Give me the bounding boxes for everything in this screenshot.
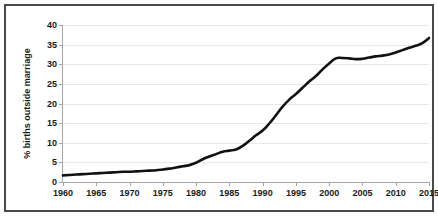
y-axis-title: % births outside marriage bbox=[20, 25, 34, 182]
x-tick bbox=[63, 182, 64, 186]
y-tick-label: 40 bbox=[47, 21, 57, 30]
plot-area: 0510152025303540 19601965197019751980198… bbox=[63, 25, 429, 182]
x-tick-label: 2015 bbox=[419, 189, 438, 198]
x-tick-label: 1960 bbox=[53, 189, 73, 198]
y-tick-label: 10 bbox=[47, 138, 57, 147]
y-tick-label: 35 bbox=[47, 40, 57, 49]
x-tick-label: 1990 bbox=[253, 189, 273, 198]
x-tick bbox=[196, 182, 197, 186]
y-tick-label: 5 bbox=[52, 158, 57, 167]
x-tick bbox=[429, 182, 430, 186]
x-tick bbox=[296, 182, 297, 186]
y-tick-label: 15 bbox=[47, 119, 57, 128]
y-tick-label: 0 bbox=[52, 178, 57, 187]
chart-frame: % births outside marriage 05101520253035… bbox=[4, 4, 434, 212]
series-line-births-outside-marriage bbox=[63, 38, 429, 175]
y-tick-label: 20 bbox=[47, 99, 57, 108]
x-tick-label: 1975 bbox=[153, 189, 173, 198]
x-tick bbox=[362, 182, 363, 186]
x-tick-label: 2010 bbox=[386, 189, 406, 198]
x-tick-label: 1970 bbox=[120, 189, 140, 198]
x-tick bbox=[163, 182, 164, 186]
x-tick bbox=[229, 182, 230, 186]
x-tick-label: 1980 bbox=[186, 189, 206, 198]
x-tick-label: 1995 bbox=[286, 189, 306, 198]
series-svg bbox=[63, 25, 429, 182]
x-tick bbox=[263, 182, 264, 186]
x-tick bbox=[396, 182, 397, 186]
x-tick-label: 2000 bbox=[319, 189, 339, 198]
x-tick-label: 2005 bbox=[352, 189, 372, 198]
y-tick-label: 30 bbox=[47, 60, 57, 69]
x-tick-label: 1965 bbox=[86, 189, 106, 198]
x-axis-line bbox=[62, 182, 430, 183]
x-tick bbox=[329, 182, 330, 186]
x-tick-label: 1985 bbox=[219, 189, 239, 198]
x-tick bbox=[96, 182, 97, 186]
x-tick bbox=[130, 182, 131, 186]
y-tick-label: 25 bbox=[47, 79, 57, 88]
chart-figure: % births outside marriage 05101520253035… bbox=[0, 0, 438, 216]
